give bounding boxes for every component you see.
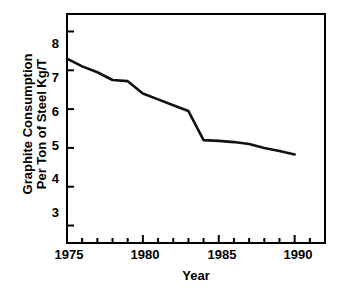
x-axis-ticks [67, 235, 310, 243]
axis-frame [67, 14, 325, 243]
data-series-line [67, 59, 295, 155]
plot-area [0, 0, 344, 292]
chart-container: Graphite Consumption Per Ton of Steel Kg… [0, 0, 344, 292]
